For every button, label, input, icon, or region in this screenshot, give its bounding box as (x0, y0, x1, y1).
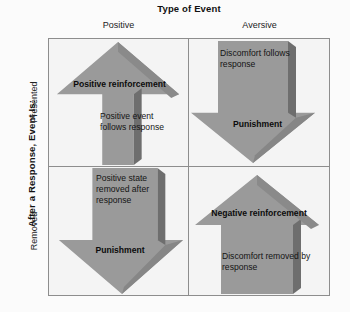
up-arrow-icon (189, 167, 329, 295)
quadrant-description-positive-removed: Positive state removed after response (96, 173, 178, 206)
row-label-removed: Removed (29, 167, 39, 295)
quadrant-positive-removed: Positive state removed after response Pu… (49, 167, 189, 295)
quadrant-aversive-presented: Discomfort follows response Punishment (189, 39, 329, 167)
quadrant-description-positive-presented: Positive event follows response (100, 111, 180, 133)
quadrant-heading-punishment-removed: Punishment (70, 245, 170, 255)
matrix-grid: Positive reinforcement Positive event fo… (48, 38, 330, 296)
up-arrow-icon (49, 39, 188, 166)
quadrant-heading-punishment-presented: Punishment (205, 119, 310, 129)
quadrant-heading-negative-reinforcement: Negative reinforcement (204, 208, 314, 218)
row-label-presented: Presented (29, 38, 39, 166)
quadrant-aversive-removed: Negative reinforcement Discomfort remove… (189, 167, 329, 295)
reinforcement-punishment-matrix: Type of Event Positive Aversive After a … (0, 0, 350, 312)
quadrant-description-aversive-presented: Discomfort follows response (220, 48, 304, 70)
quadrant-description-aversive-removed: Discomfort removed by response (222, 251, 312, 273)
column-axis-title: Type of Event (48, 3, 330, 14)
column-label-positive: Positive (48, 20, 189, 30)
quadrant-positive-presented: Positive reinforcement Positive event fo… (49, 39, 189, 167)
quadrant-heading-positive-reinforcement: Positive reinforcement (67, 79, 172, 89)
column-label-aversive: Aversive (189, 20, 330, 30)
